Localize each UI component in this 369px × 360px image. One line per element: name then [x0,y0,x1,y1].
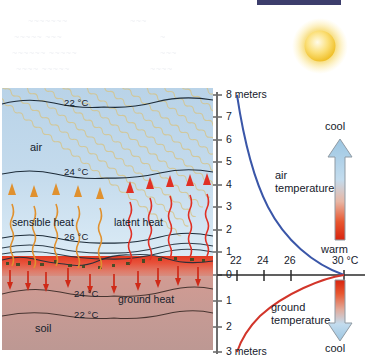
isotherm-label-air-26: 26 °C [64,231,88,242]
xtick-24: 24 [257,254,269,266]
air-scale-top-label: cool [325,120,345,132]
ytick-4: 4 [226,178,232,190]
isotherm-label-soil-24: 24 °C [74,288,98,299]
ytick-minus3: 3 meters [226,345,267,357]
ytick-7: 7 [226,110,232,122]
figure-root: ~~~~~~~ ~~~ ~~~~~ ~~~ ~ ~~~~~~ ~~~~~ ~~~… [0,0,369,360]
ytick-minus1: 1 [226,294,232,306]
isotherm-label-air-22: 22 °C [64,97,88,108]
ground-heat-label: ground heat [118,293,174,305]
isotherm-label-air-24: 24 °C [64,166,88,177]
page-bleedthrough-artifact: ~~~~~~~ ~~~ ~~~~~ ~~~ ~ ~~~~~~ ~~~~~ ~~~… [10,14,240,80]
ground-temperature-annotation-line2: temperature [271,314,330,327]
xtick-22: 22 [230,254,242,266]
sensible-heat-label: sensible heat [12,216,74,228]
ground-temperature-annotation: ground temperature [271,301,330,327]
sun-icon [292,18,348,74]
ground-temperature-scale-arrow [326,279,354,343]
xtick-26: 26 [284,254,296,266]
ground-temperature-annotation-line1: ground [271,301,330,314]
isotherm-label-soil-22: 22 °C [74,309,98,320]
ground-scale-bottom-label: cool [325,342,345,354]
ytick-6: 6 [226,133,232,145]
latent-heat-label: latent heat [114,216,163,228]
cross-section-panel: 22 °C 24 °C 26 °C 24 °C 22 °C air soil s… [2,88,213,350]
soil-region-label: soil [35,322,52,334]
ytick-5: 5 [226,155,232,167]
scan-bar-artifact [257,0,341,5]
air-scale-bottom-label: warm [321,243,348,255]
ytick-3: 3 [226,200,232,212]
air-temperature-scale-arrow [326,137,354,242]
ytick-8: 8 meters [226,88,267,100]
ytick-minus2: 2 [226,320,232,332]
xtick-30-celsius: 30 °C [332,254,358,266]
ytick-0: 0 [226,268,232,280]
ytick-2: 2 [226,223,232,235]
air-region-label: air [30,141,42,153]
